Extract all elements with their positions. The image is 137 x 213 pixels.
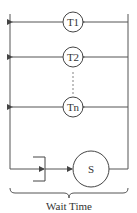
queueing-diagram: T1 T2 Tn S Wait Time [0, 0, 137, 213]
tn-label: Tn [67, 101, 80, 113]
t1-label: T1 [67, 16, 79, 28]
server-node-group: S [73, 151, 109, 187]
server-label: S [88, 163, 94, 175]
wait-time-brace [10, 188, 128, 198]
ellipsis-dots [72, 72, 73, 93]
t2-label: T2 [67, 51, 79, 63]
terminal-row-tn: Tn [12, 97, 128, 117]
wait-time-caption: Wait Time [46, 200, 92, 212]
terminal-row-t2: T2 [12, 47, 128, 67]
terminal-row-t1: T1 [12, 12, 128, 32]
